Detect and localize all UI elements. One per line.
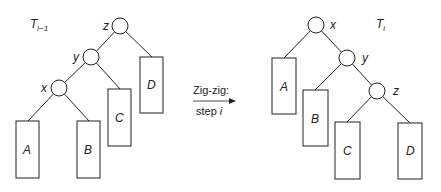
node-x bbox=[308, 17, 324, 33]
node-y bbox=[339, 50, 355, 66]
subtree-C-label: C bbox=[115, 111, 124, 125]
right-tree: Ti x y z A B C D bbox=[272, 17, 422, 179]
node-z-label: z bbox=[392, 84, 399, 98]
subtree-B-label: B bbox=[84, 143, 92, 157]
subtree-A-label: A bbox=[279, 80, 288, 94]
node-y-label: y bbox=[361, 51, 369, 65]
node-z-label: z bbox=[102, 19, 109, 33]
subtree-A-label: A bbox=[22, 143, 31, 157]
transition: Zig-zig: step i bbox=[193, 84, 236, 117]
node-y bbox=[83, 49, 99, 65]
transition-title: Zig-zig: bbox=[193, 84, 229, 96]
zig-zig-diagram: Ti−1 z y x D C A B Zig-zig: step i Ti bbox=[0, 0, 441, 192]
node-x-label: x bbox=[40, 81, 48, 95]
right-tree-label: Ti bbox=[376, 17, 385, 33]
subtree-D-label: D bbox=[406, 144, 415, 158]
arrow-head-icon bbox=[229, 98, 236, 104]
left-tree-label: Ti−1 bbox=[30, 17, 48, 33]
node-z bbox=[369, 83, 385, 99]
node-x bbox=[51, 80, 67, 96]
subtree-C-label: C bbox=[343, 144, 352, 158]
node-y-label: y bbox=[72, 50, 80, 64]
subtree-B-label: B bbox=[311, 112, 319, 126]
node-z bbox=[112, 18, 128, 34]
subtree-D-label: D bbox=[147, 78, 156, 92]
transition-step: step i bbox=[196, 105, 223, 117]
left-tree: Ti−1 z y x D C A B bbox=[16, 17, 163, 178]
node-x-label: x bbox=[329, 18, 337, 32]
